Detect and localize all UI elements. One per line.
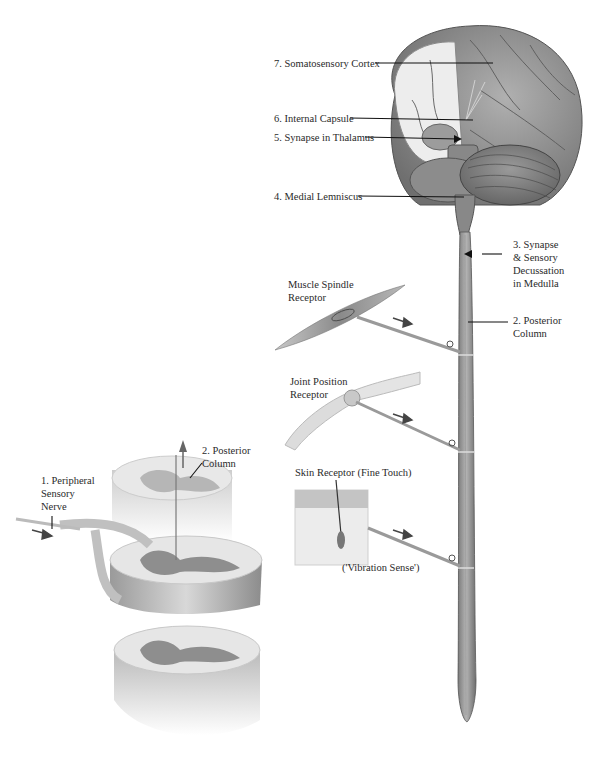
spinal-cord	[458, 232, 476, 722]
label-vibration-sense: ('Vibration Sense')	[342, 561, 420, 574]
label-peripheral-nerve: 1. Peripheral Sensory Nerve	[41, 474, 95, 513]
up-arrow-icon	[179, 440, 187, 452]
label-medulla-decussation: 3. Synapse & Sensory Decussation in Medu…	[513, 238, 564, 290]
brain	[391, 26, 582, 235]
label-posterior-column-left: 2. Posterior Column	[202, 444, 250, 470]
label-joint-position: Joint Position Receptor	[290, 375, 347, 401]
label-posterior-column-right: 2. Posterior Column	[513, 314, 561, 340]
label-medial-lemniscus: 4. Medial Lemniscus	[274, 190, 362, 203]
label-thalamus-synapse: 5. Synapse in Thalamus	[274, 131, 374, 144]
skin-receptor	[295, 480, 460, 566]
label-skin-receptor: Skin Receptor (Fine Touch)	[295, 466, 412, 479]
spinal-segment-bottom	[114, 626, 260, 735]
label-somatosensory-cortex: 7. Somatosensory Cortex	[274, 57, 380, 70]
label-muscle-spindle: Muscle Spindle Receptor	[288, 278, 354, 304]
label-internal-capsule: 6. Internal Capsule	[274, 112, 354, 125]
